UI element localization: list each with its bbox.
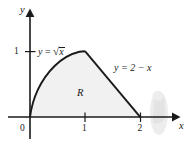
y-axis-arrow-icon <box>26 9 35 18</box>
radical-group: √x <box>53 46 64 57</box>
region-label-R: R <box>77 88 83 99</box>
y-axis-label: y <box>20 5 25 16</box>
x-tick-label-2: 2 <box>138 124 143 134</box>
figure-canvas: y x 1 0 1 2 y = √x y = 2 − x R <box>0 0 194 147</box>
radical-vinculum <box>59 47 65 48</box>
line-annotation: y = 2 − x <box>114 63 151 73</box>
x-tick-label-0: 0 <box>20 124 25 134</box>
plot-svg <box>0 0 194 147</box>
y-tick-label-1: 1 <box>14 47 19 57</box>
radicand-x: x <box>59 46 63 57</box>
x-tick-label-1: 1 <box>82 124 87 134</box>
sqrt-curve-annotation: y = √x <box>38 46 64 57</box>
sqrt-annotation-equals: = <box>42 46 53 57</box>
x-axis-label: x <box>179 121 184 132</box>
scan-artifact-smudge <box>150 91 168 135</box>
